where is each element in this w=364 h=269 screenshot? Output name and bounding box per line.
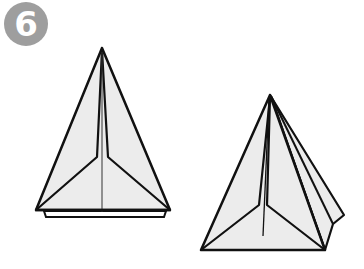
folded-kite-angled-view [201,95,344,250]
origami-diagram [0,0,364,269]
folded-kite-front-view [35,48,171,217]
